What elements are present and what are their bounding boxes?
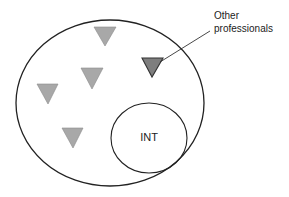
member-triangles: [37, 27, 163, 148]
member-triangle: [94, 27, 116, 46]
diagram-svg: INT Other professionals: [0, 0, 289, 197]
callout-label-line2: professionals: [214, 23, 273, 34]
highlighted-member-triangle: [142, 58, 163, 77]
diagram-canvas: INT Other professionals: [0, 0, 289, 197]
outer-group-ellipse: [16, 20, 204, 186]
member-triangle: [62, 128, 83, 148]
int-label: INT: [140, 131, 158, 143]
member-triangle: [81, 68, 103, 89]
callout-leader-line: [160, 31, 210, 62]
callout-label-line1: Other: [214, 10, 240, 21]
member-triangle: [37, 84, 58, 104]
